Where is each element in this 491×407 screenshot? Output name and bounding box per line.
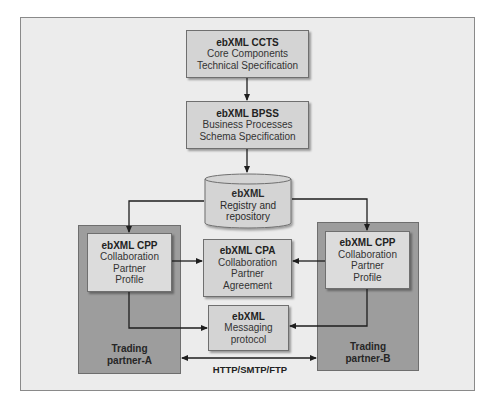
cpa-line2: Partner: [231, 268, 264, 280]
trading-partner-b-label: Trading partner-B: [318, 341, 418, 365]
registry-line1: Registry and: [204, 200, 292, 212]
partner-a-label-line2: partner-A: [79, 355, 180, 367]
cpp-b-node: ebXML CPP Collaboration Partner Profile: [325, 231, 410, 289]
ccts-line1: Core Components: [207, 48, 288, 60]
cpp-b-title: ebXML CPP: [340, 237, 396, 249]
ccts-node: ebXML CCTS Core Components Technical Spe…: [186, 30, 309, 78]
ccts-line2: Technical Specification: [197, 60, 298, 72]
messaging-line2: protocol: [231, 334, 267, 346]
ccts-title: ebXML CCTS: [216, 37, 279, 49]
bpss-node: ebXML BPSS Business Processes Schema Spe…: [186, 101, 309, 149]
protocol-label: HTTP/SMTP/FTP: [200, 364, 300, 375]
cpa-line1: Collaboration: [218, 257, 277, 269]
registry-node: ebXML Registry and repository: [204, 173, 292, 229]
partner-b-label-line1: Trading: [318, 341, 418, 353]
trading-partner-a-label: Trading partner-A: [79, 343, 180, 367]
messaging-node: ebXML Messaging protocol: [208, 305, 289, 351]
cpa-line3: Agreement: [223, 280, 272, 292]
messaging-title: ebXML: [232, 311, 265, 323]
bpss-line2: Schema Specification: [199, 131, 295, 143]
cpp-a-line2: Partner: [113, 263, 146, 275]
cpp-a-line3: Profile: [115, 274, 143, 286]
registry-line2: repository: [204, 211, 292, 223]
registry-title: ebXML: [204, 188, 292, 200]
bpss-line1: Business Processes: [202, 119, 292, 131]
cpp-a-title: ebXML CPP: [102, 240, 158, 252]
partner-a-label-line1: Trading: [79, 343, 180, 355]
cpp-b-line2: Partner: [351, 260, 384, 272]
cpa-node: ebXML CPA Collaboration Partner Agreemen…: [203, 239, 292, 297]
partner-b-label-line2: partner-B: [318, 353, 418, 365]
messaging-line1: Messaging: [224, 322, 272, 334]
cpp-b-line1: Collaboration: [338, 249, 397, 261]
cpp-a-node: ebXML CPP Collaboration Partner Profile: [87, 233, 172, 292]
bpss-title: ebXML BPSS: [216, 108, 279, 120]
cpp-a-line1: Collaboration: [100, 251, 159, 263]
cpa-title: ebXML CPA: [220, 245, 276, 257]
cpp-b-line3: Profile: [353, 272, 381, 284]
